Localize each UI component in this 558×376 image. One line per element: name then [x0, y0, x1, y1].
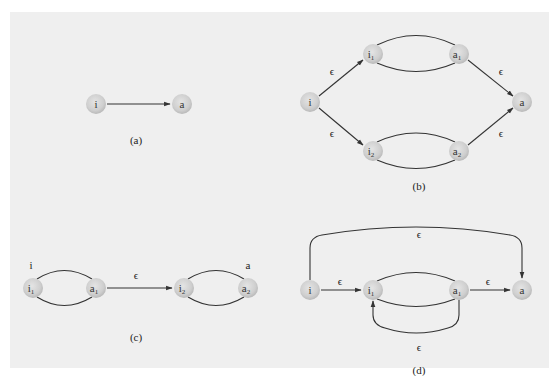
edge-i-to-i1 — [319, 60, 363, 96]
svg-text:i: i — [94, 98, 97, 110]
svg-text:a: a — [520, 284, 525, 296]
n1-lower-arc — [377, 63, 455, 72]
node-a1: a1 — [86, 278, 106, 298]
node-a1: a1 — [449, 44, 469, 64]
edge-i-to-i2 — [319, 108, 363, 145]
node-i2: i2 — [174, 278, 194, 298]
node-i1: i1 — [23, 278, 43, 298]
epsilon-label: ϵ — [330, 65, 335, 77]
node-a: a — [512, 92, 532, 112]
svg-text:i: i — [308, 284, 311, 296]
caption-d: (d) — [413, 364, 426, 376]
svg-text:a: a — [520, 96, 525, 108]
node-i: i — [300, 280, 320, 300]
node-a2: a2 — [449, 141, 469, 161]
epsilon-label: ϵ — [499, 127, 504, 139]
n2-lower-arc — [377, 160, 455, 169]
svg-text:a: a — [180, 98, 185, 110]
n2-upper-arc — [377, 133, 455, 142]
n1-lower-arc — [377, 299, 455, 307]
n2-upper-arc — [188, 271, 244, 280]
n1-upper-arc — [37, 271, 92, 280]
panel-d: ϵ ϵ ϵ ϵ i i1 a1 a (d) — [300, 227, 532, 376]
svg-text:i: i — [308, 96, 311, 108]
n1-lower-arc — [37, 297, 92, 306]
accept-state-label: a — [246, 259, 251, 271]
node-i2: i2 — [363, 141, 383, 161]
n1-upper-arc — [377, 36, 455, 46]
edge-a2-to-a — [468, 108, 513, 145]
epsilon-label: ϵ — [417, 341, 422, 353]
edge-a1-to-i1-loop — [373, 300, 459, 333]
node-a: a — [172, 94, 192, 114]
caption-a: (a) — [130, 134, 143, 147]
epsilon-label: ϵ — [486, 275, 491, 287]
panel-c: ϵ i a i1 a1 i2 a2 (c) — [23, 259, 258, 344]
epsilon-label: ϵ — [330, 127, 335, 139]
caption-b: (b) — [413, 180, 426, 193]
epsilon-label: ϵ — [338, 275, 343, 287]
panel-b: ϵ ϵ ϵ ϵ i i1 a1 i2 a2 a (b) — [300, 36, 532, 194]
node-i1: i1 — [363, 44, 383, 64]
node-i: i — [300, 92, 320, 112]
n2-lower-arc — [188, 297, 244, 306]
epsilon-label: ϵ — [134, 269, 139, 281]
node-a2: a2 — [238, 278, 258, 298]
node-a: a — [512, 280, 532, 300]
caption-c: (c) — [130, 331, 143, 344]
node-i1: i1 — [363, 280, 383, 300]
epsilon-label: ϵ — [499, 65, 504, 77]
panel-a: i a (a) — [86, 94, 192, 147]
node-i: i — [86, 94, 106, 114]
nfa-diagram: i a (a) ϵ ϵ ϵ ϵ i i1 a — [0, 0, 558, 376]
edge-a1-to-a — [468, 60, 513, 96]
epsilon-label: ϵ — [417, 228, 422, 240]
start-state-label: i — [29, 259, 32, 271]
node-a1: a1 — [449, 280, 469, 300]
n1-upper-arc — [377, 273, 455, 282]
